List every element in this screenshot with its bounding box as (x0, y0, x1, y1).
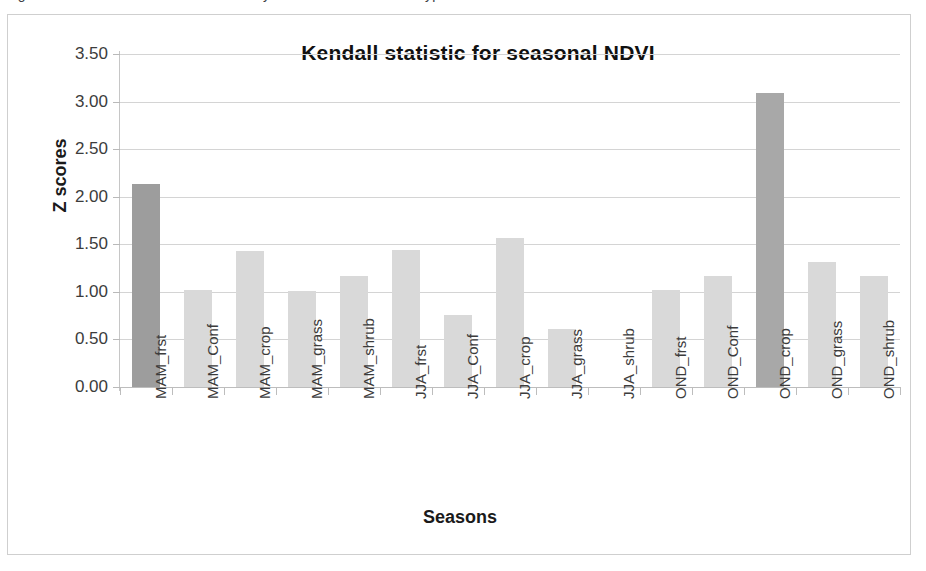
x-tick-label-jja_grass: JJA_grass (568, 279, 585, 399)
y-tick-mark (113, 197, 120, 198)
x-tick-label-jja_frst: JJA_frst (412, 279, 429, 399)
x-tick-label-ond_grass: OND_grass (828, 279, 845, 399)
y-tick-mark (113, 102, 120, 103)
y-tick-label: 2.00 (62, 187, 108, 207)
x-tick-label-ond_crop: OND_crop (776, 279, 793, 399)
x-axis-title: Seasons (8, 507, 912, 528)
x-tick-label-mam_frst: MAM_frst (152, 279, 169, 399)
x-tick-label-mam_grass: MAM_grass (308, 279, 325, 399)
x-tick-label-ond_shrub: OND_shrub (880, 279, 897, 399)
y-tick-mark (113, 54, 120, 55)
clipped-caption-strip: Figure: Mann-Kendall trend test results … (0, 0, 926, 12)
y-tick-label: 2.50 (62, 139, 108, 159)
x-tick-mark (692, 387, 693, 395)
x-tick-mark (224, 387, 225, 395)
x-tick-label-ond_conf: OND_Conf (724, 279, 741, 399)
x-tick-label-mam_crop: MAM_crop (256, 279, 273, 399)
x-tick-mark (900, 387, 901, 395)
x-tick-mark (484, 387, 485, 395)
chart-figure-frame: Kendall statistic for seasonal NDVI Z sc… (7, 14, 911, 555)
y-tick-mark (113, 387, 120, 388)
x-tick-mark (120, 387, 121, 395)
x-tick-mark (432, 387, 433, 395)
x-tick-mark (172, 387, 173, 395)
x-tick-mark (328, 387, 329, 395)
x-tick-mark (640, 387, 641, 395)
y-tick-mark (113, 244, 120, 245)
y-tick-mark (113, 339, 120, 340)
y-tick-mark (113, 292, 120, 293)
x-tick-label-jja_conf: JJA_Conf (464, 279, 481, 399)
x-tick-label-mam_conf: MAM_Conf (204, 279, 221, 399)
caption-text: Figure: Mann-Kendall trend test results … (6, 0, 448, 2)
x-tick-mark (536, 387, 537, 395)
y-axis-tick-labels: 0.000.501.001.502.002.503.003.50 (56, 54, 108, 387)
x-tick-label-ond_frst: OND_frst (672, 279, 689, 399)
y-tick-label: 1.00 (62, 282, 108, 302)
y-tick-label: 0.00 (62, 377, 108, 397)
x-tick-mark (276, 387, 277, 395)
x-tick-mark (380, 387, 381, 395)
x-tick-mark (796, 387, 797, 395)
x-tick-label-mam_shrub: MAM_shrub (360, 279, 377, 399)
y-tick-label: 0.50 (62, 329, 108, 349)
x-tick-mark (848, 387, 849, 395)
y-tick-label: 3.00 (62, 92, 108, 112)
x-tick-mark (588, 387, 589, 395)
x-tick-mark (744, 387, 745, 395)
y-tick-label: 3.50 (62, 44, 108, 64)
y-tick-mark (113, 149, 120, 150)
x-tick-label-jja_shrub: JJA_shrub (620, 279, 637, 399)
y-tick-label: 1.50 (62, 234, 108, 254)
x-tick-label-jja_crop: JJA_crop (516, 279, 533, 399)
